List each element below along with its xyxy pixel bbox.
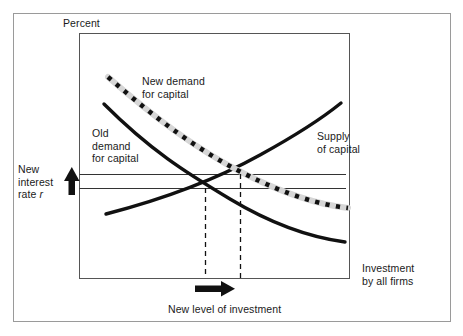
shift-caption: New level of investment bbox=[168, 303, 281, 316]
supply-label-line-2: of capital bbox=[317, 143, 360, 156]
new-demand-label-line-1: New demand bbox=[142, 75, 205, 88]
supply-label: Supply of capital bbox=[317, 130, 360, 155]
old-demand-label-line-2: demand bbox=[92, 140, 139, 153]
supply-label-line-1: Supply bbox=[317, 130, 360, 143]
y-axis-label-line-3: rate r bbox=[18, 188, 53, 201]
y-axis-label: New interest rate r bbox=[18, 163, 53, 201]
interest-rate-symbol: r bbox=[40, 188, 44, 200]
investment-right-arrow-icon bbox=[195, 281, 235, 297]
new-demand-label-line-2: for capital bbox=[142, 88, 205, 101]
y-axis-label-line-1: New bbox=[18, 163, 53, 176]
x-axis-label-line-2: by all firms bbox=[362, 275, 414, 288]
y-axis-label-line-3-text: rate bbox=[18, 188, 40, 200]
new-demand-label: New demand for capital bbox=[142, 75, 205, 100]
old-demand-label-line-3: for capital bbox=[92, 152, 139, 165]
x-axis-label: Investment by all firms bbox=[362, 262, 414, 287]
interest-rate-up-arrow-icon bbox=[64, 167, 80, 195]
x-axis-label-line-1: Investment bbox=[362, 262, 414, 275]
old-demand-label: Old demand for capital bbox=[92, 127, 139, 165]
old-demand-label-line-1: Old bbox=[92, 127, 139, 140]
figure-container: Percent New demand for capital Old deman… bbox=[0, 0, 463, 336]
y-axis-title: Percent bbox=[63, 17, 100, 30]
y-axis-label-line-2: interest bbox=[18, 176, 53, 189]
